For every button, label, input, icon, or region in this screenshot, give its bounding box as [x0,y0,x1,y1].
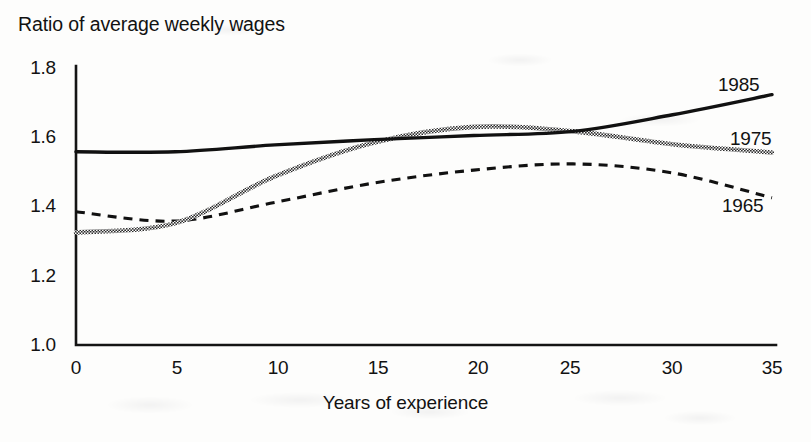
series-line-1965 [76,164,772,221]
chart-figure: Ratio of average weekly wages 1.8 1.6 1.… [0,0,811,442]
chart-axis-lines [76,66,776,345]
series-line-1975 [76,126,772,232]
chart-plot-area [0,0,811,442]
